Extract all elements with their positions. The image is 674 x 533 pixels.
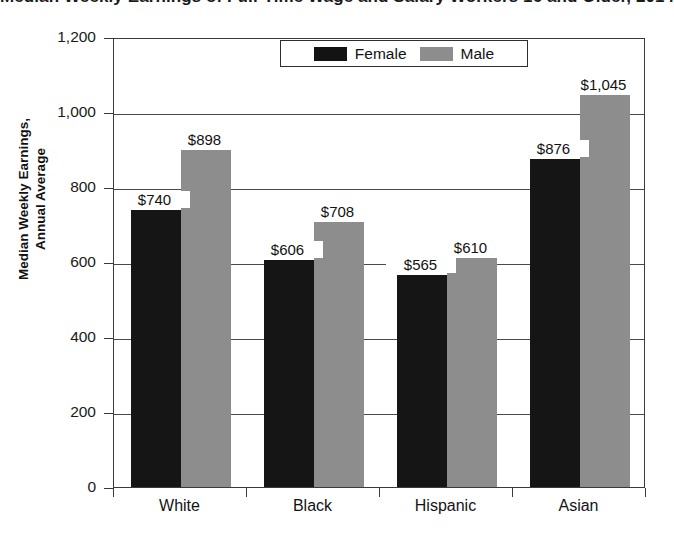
x-axis-tick [113,488,114,497]
legend-label-female: Female [355,45,407,63]
legend-swatch-male-icon [420,47,453,61]
bar-asian-female [530,159,580,488]
x-axis-tick [512,488,513,497]
y-axis-tick-label: 600 [36,253,96,271]
y-axis-tick [104,338,113,339]
y-axis-tick-label: 1,000 [36,103,96,121]
plot-area [113,38,645,488]
x-axis-tick [645,488,646,497]
y-axis-tick [104,113,113,114]
y-axis-tick-label: 800 [36,178,96,196]
gridline [114,114,644,115]
y-axis-tick-label: 1,200 [36,28,96,46]
bar-value-label: $565 [386,256,456,273]
x-axis-category-hispanic: Hispanic [376,497,516,515]
legend-item-male: Male [420,45,495,63]
x-axis-tick [246,488,247,497]
x-axis-category-asian: Asian [509,497,649,515]
y-axis-tick [104,188,113,189]
bar-value-label: $606 [253,241,323,258]
bar-value-label: $740 [120,191,190,208]
bar-hispanic-female [397,275,447,487]
chart-legend: Female Male [280,40,528,67]
bar-value-label: $708 [303,203,373,220]
y-axis-tick-label: 0 [36,478,96,496]
bar-value-label: $876 [519,140,589,157]
x-axis-category-black: Black [243,497,383,515]
bar-value-label: $1,045 [569,76,639,93]
bar-value-label: $610 [436,239,506,256]
y-axis-tick-label: 400 [36,328,96,346]
chart-title: Median Weekly Earnings of Full-Time Wage… [0,0,663,7]
y-axis-title-line1: Median Weekly Earnings, [15,69,32,329]
bar-black-female [264,260,314,487]
y-axis-tick [104,413,113,414]
y-axis-tick [104,488,113,489]
x-axis-category-white: White [110,497,250,515]
y-axis-tick [104,38,113,39]
bar-value-label: $898 [170,131,240,148]
y-axis-tick-label: 200 [36,403,96,421]
bar-black-male [314,222,364,488]
bar-hispanic-male [447,258,497,487]
x-axis-tick [379,488,380,497]
legend-label-male: Male [461,45,495,63]
bar-white-female [131,210,181,488]
legend-swatch-female-icon [314,47,347,61]
y-axis-tick [104,263,113,264]
legend-item-female: Female [314,45,407,63]
